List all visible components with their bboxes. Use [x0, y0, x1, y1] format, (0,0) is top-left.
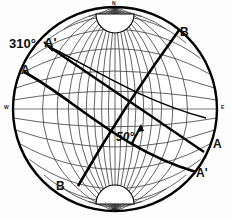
label-b-top-right: B	[180, 26, 189, 38]
label-aprime-bottom-right: A'	[196, 167, 208, 179]
cardinal-east: E	[221, 105, 224, 110]
label-b-bottom-left: B	[56, 180, 65, 192]
azimuth-label: 310°	[9, 37, 36, 50]
stereonet-figure: N S W E 310° A' A A A' B B 50°	[0, 0, 231, 219]
label-a-right: A	[213, 138, 222, 150]
cardinal-south: S	[112, 208, 115, 213]
dip-annotation-label: 50°	[116, 131, 134, 143]
label-aprime-top-left: A'	[44, 36, 56, 49]
stereonet-svg	[0, 0, 231, 219]
label-a-left: A	[21, 64, 30, 76]
cardinal-west: W	[4, 105, 9, 110]
cardinal-north: N	[112, 1, 116, 6]
